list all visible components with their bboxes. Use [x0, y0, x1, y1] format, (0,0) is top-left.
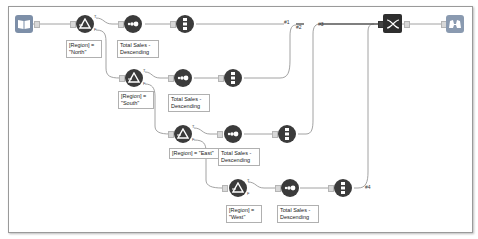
- output-anchor[interactable]: [34, 21, 40, 28]
- sort-tool[interactable]: [281, 179, 299, 197]
- sample-tool[interactable]: [278, 125, 296, 143]
- filter-annotation: [Region] = "East": [169, 148, 221, 159]
- output-anchor[interactable]: [404, 21, 410, 28]
- sort-annotation: Total Sales - Descending: [218, 148, 260, 166]
- filter-annotation: [Region] = "South": [118, 91, 154, 109]
- connection-tag: #2: [296, 24, 302, 30]
- false-anchor[interactable]: F: [247, 191, 249, 196]
- sample-tool[interactable]: [176, 15, 194, 33]
- true-anchor[interactable]: T: [143, 68, 145, 73]
- filter-tool-east[interactable]: [174, 125, 192, 143]
- filter-tool-west[interactable]: [229, 179, 247, 197]
- sample-icon: [229, 71, 237, 85]
- sort-icon: [284, 184, 296, 192]
- sort-tool[interactable]: [174, 69, 192, 87]
- filter-annotation: [Region] = "North": [66, 40, 102, 58]
- sort-annotation: Total Sales - Descending: [117, 40, 159, 58]
- binoculars-icon: [448, 18, 462, 30]
- filter-annotation: [Region] = "West": [226, 205, 262, 223]
- filter-tool-north[interactable]: [76, 15, 94, 33]
- sort-icon: [177, 74, 189, 82]
- sort-annotation: Total Sales - Descending: [277, 205, 319, 223]
- filter-tool-south[interactable]: [125, 69, 143, 87]
- true-anchor[interactable]: T: [192, 124, 194, 129]
- sample-tool[interactable]: [224, 69, 242, 87]
- true-anchor[interactable]: T: [247, 178, 249, 183]
- filter-icon: [128, 72, 140, 84]
- input-anchor[interactable]: [217, 131, 223, 138]
- sort-tool[interactable]: [224, 125, 242, 143]
- input-data-tool[interactable]: [15, 15, 33, 33]
- sample-icon: [181, 17, 189, 31]
- connection-wires: [0, 0, 478, 239]
- union-icon: [386, 17, 400, 31]
- sample-icon: [283, 127, 291, 141]
- sort-annotation: Total Sales - Descending: [168, 94, 210, 112]
- sample-icon: [339, 181, 347, 195]
- connection-tag: #1: [284, 19, 290, 25]
- sample-tool[interactable]: [334, 179, 352, 197]
- true-anchor[interactable]: T: [94, 14, 96, 19]
- filter-icon: [232, 182, 244, 194]
- filter-icon: [79, 18, 91, 30]
- input-anchor[interactable]: [222, 185, 228, 192]
- false-anchor[interactable]: F: [143, 81, 145, 86]
- sort-icon: [127, 20, 139, 28]
- sort-tool[interactable]: [124, 15, 142, 33]
- connection-tag: #3: [318, 21, 324, 27]
- connection-tag: #4: [365, 184, 371, 190]
- book-icon: [17, 18, 31, 30]
- false-anchor[interactable]: F: [94, 27, 96, 32]
- false-anchor[interactable]: F: [192, 137, 194, 142]
- browse-tool[interactable]: [446, 15, 464, 33]
- union-tool[interactable]: [383, 14, 402, 33]
- filter-icon: [177, 128, 189, 140]
- sort-icon: [227, 130, 239, 138]
